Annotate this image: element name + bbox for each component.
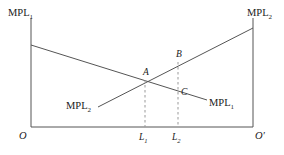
mpl1-top-label: MPL1 (8, 8, 33, 19)
mpl2-curve-subscript: 2 (88, 106, 92, 114)
tick-l2-subscript: 2 (177, 137, 180, 144)
tick-l1-subscript: 1 (144, 137, 147, 144)
mpl1-top-subscript: 1 (30, 13, 34, 21)
mpl2-curve-label: MPL2 (66, 101, 91, 112)
mpl1-curve-subscript: 1 (231, 103, 235, 111)
labour-allocation-diagram: MPL1 MPL2 MPL2 MPL1 A B C O O′ L1 L2 (0, 0, 284, 155)
point-label-a: A (143, 68, 149, 78)
mpl1-curve-label: MPL1 (209, 98, 234, 109)
mpl2-curve (98, 28, 253, 107)
mpl2-top-subscript: 2 (269, 13, 273, 21)
point-label-b: B (176, 50, 182, 60)
point-label-c: C (181, 88, 187, 98)
tick-label-l1: L1 (139, 133, 148, 143)
mpl2-top-label: MPL2 (247, 8, 272, 19)
tick-label-l2: L2 (172, 133, 181, 143)
right-origin-label: O′ (255, 131, 265, 142)
left-origin-label: O (19, 131, 27, 142)
